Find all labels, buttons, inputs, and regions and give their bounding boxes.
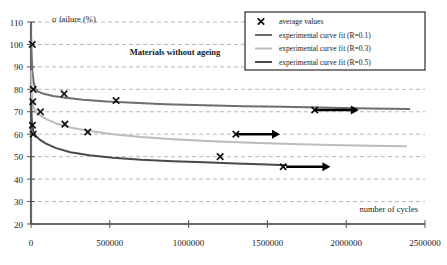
x-tick-label: 2000000	[330, 238, 362, 248]
failure-stress-vs-cycles-chart: 2030405060708090100110 05000001000000150…	[0, 0, 447, 265]
x-tick-label: 2500000	[409, 238, 441, 248]
y-tick-label: 60	[14, 130, 24, 140]
y-tick-label: 100	[10, 40, 24, 50]
y-tick-label: 90	[14, 62, 24, 72]
y-tick-label: 110	[10, 18, 24, 28]
x-tick-label: 1500000	[252, 238, 284, 248]
average-value-marker	[61, 91, 67, 97]
legend-entry-label: average values	[279, 17, 323, 26]
legend: average valuesexperimental curve fit (R=…	[245, 12, 425, 70]
series-line	[31, 101, 286, 166]
y-tick-label: 50	[14, 152, 24, 162]
run-out-arrow	[236, 130, 280, 139]
y-axis-tick-labels: 2030405060708090100110	[10, 18, 24, 230]
plot-title: Materials without ageing	[130, 47, 221, 57]
x-tick-label: 1000000	[173, 238, 205, 248]
y-tick-label: 40	[14, 175, 24, 185]
legend-entry-label: experimental curve fit (R=0.1)	[279, 31, 371, 40]
y-tick-label: 20	[14, 220, 24, 230]
y-tick-label: 70	[14, 107, 24, 117]
x-tick-label: 500000	[96, 238, 124, 248]
y-tick-label: 30	[14, 197, 24, 207]
x-axis-tick-labels: 05000001000000150000020000002500000	[29, 238, 442, 248]
legend-entry-label: experimental curve fit (R=0.5)	[279, 58, 371, 67]
run-out-arrows	[236, 105, 359, 171]
x-axis-label: number of cycles	[359, 204, 418, 214]
y-tick-label: 80	[14, 85, 24, 95]
legend-entry-label: experimental curve fit (R=0.3)	[279, 44, 371, 53]
chart-container: 2030405060708090100110 05000001000000150…	[0, 0, 447, 265]
run-out-arrow	[286, 162, 330, 171]
y-axis-label: σ failure (%)	[52, 14, 96, 24]
x-tick-label: 0	[29, 238, 34, 248]
